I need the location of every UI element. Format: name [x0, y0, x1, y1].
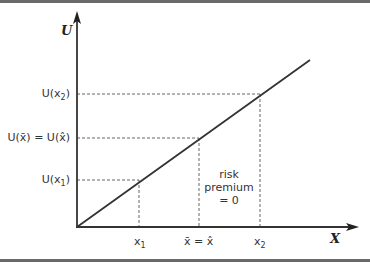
annotation-line-2: premium	[199, 181, 259, 194]
risk-premium-annotation: risk premium = 0	[199, 168, 259, 207]
y-tick-u-x2: U(x2)	[0, 88, 70, 99]
utility-line	[77, 60, 310, 227]
y-axis-label: U	[61, 24, 72, 37]
annotation-line-1: risk	[199, 168, 259, 181]
annotation-line-3: = 0	[199, 194, 259, 207]
y-tick-u-x1: U(x1)	[0, 174, 70, 185]
y-tick-u-xbar: U(x̄) = U(x̂)	[0, 132, 70, 143]
x-tick-x1: x1	[134, 236, 146, 247]
x-tick-x2: x2	[254, 236, 266, 247]
x-tick-xbar: x̄ = x̂	[184, 236, 213, 247]
x-axis-label: X	[330, 232, 340, 245]
